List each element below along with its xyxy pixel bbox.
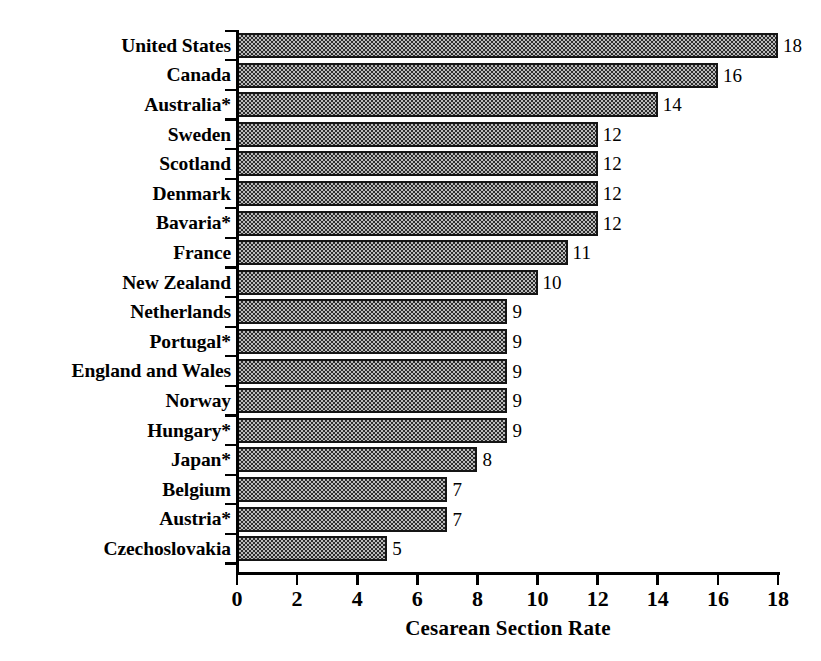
x-axis-tick (777, 572, 780, 585)
bar-row: Denmark12 (0, 179, 821, 209)
bar-row: Austria*7 (0, 504, 821, 534)
bar-value-label: 7 (447, 477, 462, 502)
bar (237, 63, 718, 88)
bar-wrapper (237, 33, 778, 58)
bar-value-label: 18 (778, 33, 802, 58)
bar-value-label: 12 (598, 211, 622, 236)
bar (237, 388, 507, 413)
x-axis-tick-label: 4 (337, 586, 377, 612)
category-label: Czechoslovakia (103, 534, 238, 564)
category-label: Sweden (168, 120, 238, 150)
bar-wrapper (237, 359, 507, 384)
category-label: Norway (166, 386, 238, 416)
x-axis-tick-label: 10 (518, 586, 558, 612)
bar-wrapper (237, 270, 538, 295)
x-axis-tick (656, 572, 659, 585)
y-axis-tick (225, 266, 238, 268)
x-axis-tick (717, 572, 720, 585)
category-label: United States (121, 31, 238, 61)
bar-wrapper (237, 507, 447, 532)
bar-row: Japan*8 (0, 445, 821, 475)
y-axis-tick (225, 118, 238, 120)
category-label: England and Wales (72, 356, 238, 386)
bar-row: Hungary*9 (0, 416, 821, 446)
bar-value-label: 12 (598, 151, 622, 176)
x-axis-tick-label: 8 (457, 586, 497, 612)
x-axis-tick-label: 12 (578, 586, 618, 612)
x-axis-line (236, 572, 780, 575)
bar-row: Canada16 (0, 60, 821, 90)
y-axis-tick (225, 355, 238, 357)
bar-value-label: 11 (568, 240, 591, 265)
x-axis-tick (416, 572, 419, 585)
y-axis-tick (225, 414, 238, 416)
x-axis-tick (296, 572, 299, 585)
y-axis-tick (225, 444, 238, 446)
x-axis-tick (536, 572, 539, 585)
bar-row: New Zealand10 (0, 268, 821, 298)
bar (237, 211, 598, 236)
x-axis-tick-label: 14 (638, 586, 678, 612)
category-label: Australia* (144, 90, 238, 120)
bar (237, 181, 598, 206)
bar (237, 151, 598, 176)
bar-value-label: 12 (598, 181, 622, 206)
bar-value-label: 8 (477, 447, 492, 472)
bar-value-label: 5 (387, 536, 402, 561)
bar-row: Portugal*9 (0, 327, 821, 357)
bar (237, 507, 447, 532)
bar (237, 240, 568, 265)
category-label: Bavaria* (156, 208, 238, 238)
x-axis-tick (236, 572, 239, 585)
bar-value-label: 9 (507, 299, 522, 324)
bar (237, 536, 387, 561)
bar-row: Czechoslovakia5 (0, 534, 821, 564)
bar (237, 122, 598, 147)
bar-wrapper (237, 92, 658, 117)
y-axis-tick (225, 385, 238, 387)
bar-wrapper (237, 181, 598, 206)
y-axis-tick (225, 296, 238, 298)
x-axis-tick-label: 18 (758, 586, 798, 612)
y-axis-tick (225, 237, 238, 239)
bar-wrapper (237, 240, 568, 265)
bar-wrapper (237, 151, 598, 176)
bar-wrapper (237, 536, 387, 561)
category-label: Japan* (171, 445, 238, 475)
y-axis-tick (225, 59, 238, 61)
bar-wrapper (237, 122, 598, 147)
bar (237, 329, 507, 354)
x-axis-title: Cesarean Section Rate (236, 616, 780, 641)
bar-row: Belgium7 (0, 475, 821, 505)
bar-wrapper (237, 388, 507, 413)
bar-value-label: 10 (538, 270, 562, 295)
y-axis-tick (225, 562, 238, 564)
y-axis-tick (225, 326, 238, 328)
bar (237, 270, 538, 295)
y-axis-tick (225, 30, 238, 32)
x-axis-tick-label: 0 (217, 586, 257, 612)
category-label: France (173, 238, 238, 268)
category-label: Canada (167, 60, 238, 90)
y-axis-tick (225, 503, 238, 505)
bar-value-label: 16 (718, 63, 742, 88)
bar (237, 33, 778, 58)
bar-value-label: 14 (658, 92, 682, 117)
bar-value-label: 9 (507, 329, 522, 354)
bar-row: Sweden12 (0, 120, 821, 150)
category-label: Portugal* (150, 327, 238, 357)
bar (237, 418, 507, 443)
bar-wrapper (237, 211, 598, 236)
bar-row: Australia*14 (0, 90, 821, 120)
bar (237, 92, 658, 117)
category-label: Denmark (153, 179, 238, 209)
y-axis-tick (225, 89, 238, 91)
bar-wrapper (237, 63, 718, 88)
bar-row: United States18 (0, 31, 821, 61)
category-label: Scotland (159, 149, 238, 179)
bar-wrapper (237, 447, 477, 472)
bar (237, 477, 447, 502)
bar-value-label: 12 (598, 122, 622, 147)
y-axis-tick (225, 148, 238, 150)
y-axis-tick (225, 178, 238, 180)
